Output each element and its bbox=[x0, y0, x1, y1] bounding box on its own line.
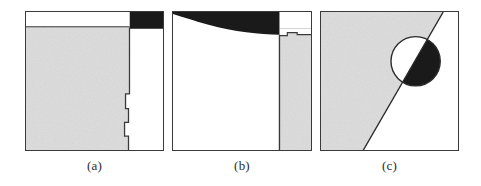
panel-b-graphic bbox=[173, 12, 311, 150]
panel-b bbox=[172, 11, 312, 151]
panel-a bbox=[25, 11, 164, 151]
panel-b-white-top-right-notch bbox=[279, 12, 311, 29]
caption-panel-b: (b) bbox=[172, 158, 312, 174]
panel-c bbox=[320, 11, 459, 151]
panel-b-gray-right-column bbox=[279, 33, 311, 150]
panel-c-graphic bbox=[321, 12, 458, 150]
caption-panel-c: (c) bbox=[320, 158, 459, 174]
panel-a-gray-region bbox=[26, 28, 129, 150]
caption-panel-a: (a) bbox=[25, 158, 164, 174]
panel-a-white-top-strip bbox=[26, 12, 129, 27]
panel-a-graphic bbox=[26, 12, 163, 150]
panel-a-black-top-right-bar bbox=[129, 12, 163, 29]
figure-three-panels: (a) bbox=[0, 0, 481, 186]
